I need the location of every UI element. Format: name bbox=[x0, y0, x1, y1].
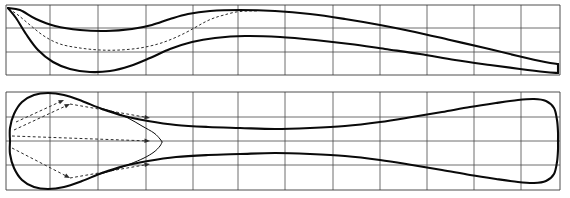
figure-canvas bbox=[0, 0, 570, 198]
hull-lines-figure bbox=[0, 0, 570, 198]
